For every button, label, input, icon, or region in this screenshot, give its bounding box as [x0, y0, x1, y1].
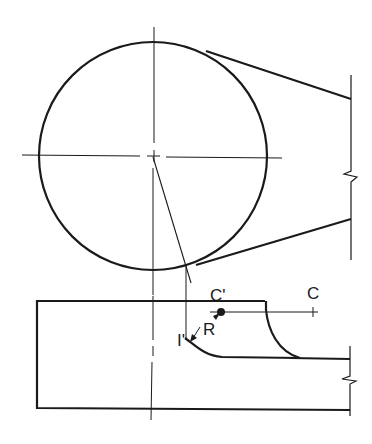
top-view	[22, 27, 357, 295]
horizontal-centerline-right	[166, 157, 282, 158]
label-r: R	[203, 320, 215, 339]
right-break-line	[344, 75, 357, 260]
lower-tangent-line	[196, 219, 351, 265]
technical-drawing: C' C R I'	[0, 0, 372, 444]
side-view-centerline-b	[151, 362, 152, 420]
r-arrowhead-lower	[190, 334, 197, 342]
side-view-outline	[37, 301, 350, 410]
label-c-prime: C'	[210, 286, 226, 305]
label-c: C	[307, 284, 319, 303]
large-fillet-curve	[266, 301, 300, 358]
side-right-break-line	[342, 346, 356, 416]
upper-tangent-line	[206, 51, 351, 99]
label-i-prime: I'	[177, 331, 185, 350]
r-arrowhead-upper	[213, 313, 220, 320]
radius-line	[153, 157, 191, 283]
